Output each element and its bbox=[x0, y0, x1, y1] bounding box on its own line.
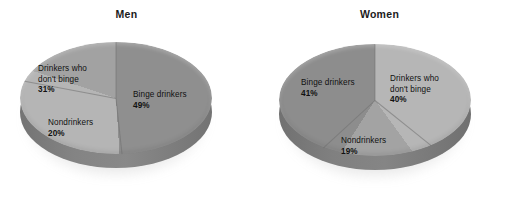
chart-panel-women: Women Binge drinkers 41% Drinkers who do… bbox=[253, 0, 506, 206]
slice-label-men-nondrinkers: Nondrinkers 20% bbox=[48, 118, 93, 139]
slice-label-men-drinkers-who-dont-binge: Drinkers who don't binge 31% bbox=[38, 64, 87, 96]
slice-value: 40% bbox=[390, 95, 439, 106]
slice-label-name: Binge drinkers bbox=[301, 78, 355, 89]
slice-label-women-binge-drinkers: Binge drinkers 41% bbox=[301, 78, 355, 99]
slice-label-name: Nondrinkers bbox=[341, 136, 386, 147]
slice-label-name: Binge drinkers bbox=[133, 90, 187, 101]
slice-label-women-nondrinkers: Nondrinkers 19% bbox=[341, 136, 386, 157]
slice-value: 41% bbox=[301, 89, 355, 100]
slice-label-women-drinkers-who-dont-binge: Drinkers who don't binge 40% bbox=[390, 74, 439, 106]
slice-value: 49% bbox=[133, 101, 187, 112]
slice-label-line1: Drinkers who bbox=[390, 74, 439, 85]
pie-women bbox=[275, 32, 475, 192]
chart-title-men: Men bbox=[0, 8, 253, 20]
chart-panel-men: Men Drinkers who don't binge 31% Nondrin… bbox=[0, 0, 253, 206]
slice-label-men-binge-drinkers: Binge drinkers 49% bbox=[133, 90, 187, 111]
slice-value: 20% bbox=[48, 129, 93, 140]
chart-title-women: Women bbox=[253, 8, 506, 20]
slice-value: 19% bbox=[341, 147, 386, 158]
slice-label-line2: don't binge bbox=[38, 75, 87, 86]
slice-value: 31% bbox=[38, 85, 87, 96]
slice-label-line1: Drinkers who bbox=[38, 64, 87, 75]
slice-label-line2: don't binge bbox=[390, 85, 439, 96]
slice-label-name: Nondrinkers bbox=[48, 118, 93, 129]
pie-chart-figure: Men Drinkers who don't binge 31% Nondrin… bbox=[0, 0, 506, 206]
